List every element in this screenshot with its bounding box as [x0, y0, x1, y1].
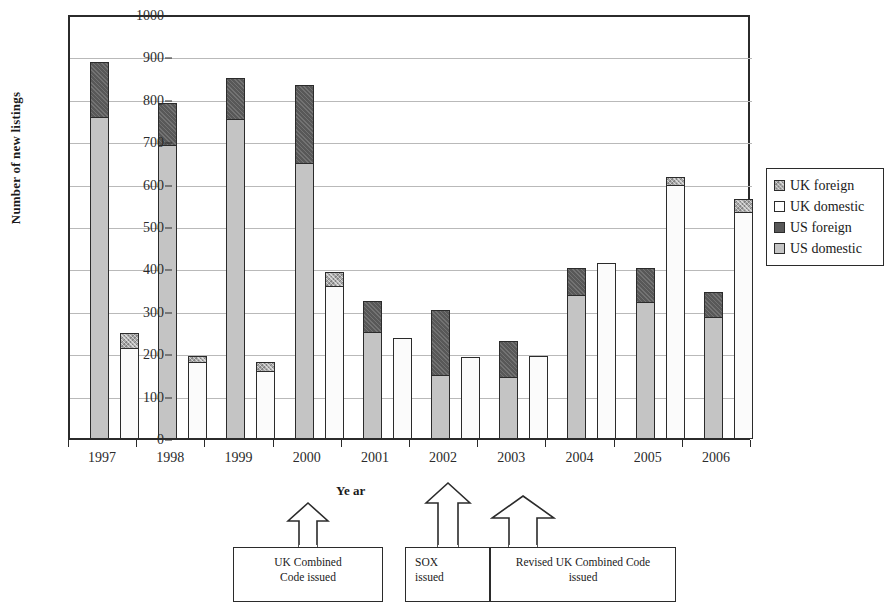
bar-us-1997	[90, 62, 109, 438]
legend-label-us-domestic: US domestic	[790, 242, 862, 256]
x-axis-tick-label-2005: 2005	[612, 450, 684, 466]
bar-uk-1998	[188, 356, 207, 438]
bar-us-2004	[567, 268, 586, 438]
x-axis-tick-mark	[341, 440, 342, 447]
x-axis-tick-label-1997: 1997	[66, 450, 138, 466]
annotation-line-1: SOX	[415, 555, 489, 570]
x-axis-tick-mark	[409, 440, 410, 447]
bar-uk-2002	[461, 357, 480, 438]
legend-swatch-uk-domestic	[774, 201, 785, 212]
bar-uk-2001	[393, 338, 412, 438]
bar-segment-uk-domestic	[188, 362, 207, 440]
bar-us-2003	[499, 341, 518, 438]
bar-segment-us-foreign	[704, 292, 723, 318]
bar-us-2000	[295, 85, 314, 438]
bar-segment-us-domestic	[499, 377, 518, 439]
x-axis-tick-label-2001: 2001	[339, 450, 411, 466]
bar-segment-us-domestic	[226, 119, 245, 440]
annotation-arrow-revised-uk-combined-code	[490, 494, 556, 551]
y-axis-tick-label: 0	[104, 433, 164, 447]
y-axis-tick-label: 700	[104, 136, 164, 150]
bar-segment-us-foreign	[363, 301, 382, 334]
annotation-box-sox: SOX issued	[405, 547, 490, 602]
annotation-line-1: Revised UK Combined Code	[491, 555, 675, 570]
y-axis-tick-label: 300	[104, 306, 164, 320]
y-axis-tick-label: 100	[104, 391, 164, 405]
legend: UK foreign UK domestic US foreign US dom…	[766, 168, 884, 266]
x-axis-tick-label-1998: 1998	[134, 450, 206, 466]
bar-segment-us-foreign	[636, 268, 655, 303]
annotation-line-2: issued	[491, 570, 675, 585]
annotation-line-1: UK Combined	[234, 555, 382, 570]
bar-us-2006	[704, 292, 723, 438]
legend-item-uk-foreign: UK foreign	[774, 175, 878, 196]
x-axis-tick-mark	[614, 440, 615, 447]
x-axis-tick-label-1999: 1999	[203, 450, 275, 466]
bar-segment-uk-domestic	[461, 357, 480, 439]
x-axis-title: Ye ar	[291, 483, 411, 499]
legend-item-uk-domestic: UK domestic	[774, 196, 878, 217]
bar-us-2001	[363, 301, 382, 438]
x-axis-tick-mark	[750, 440, 751, 447]
legend-item-us-foreign: US foreign	[774, 217, 878, 238]
bar-segment-uk-domestic	[666, 185, 685, 439]
annotation-arrow-uk-combined-code	[286, 501, 330, 551]
bar-segment-us-foreign	[499, 341, 518, 378]
annotation-line-2: Code issued	[234, 570, 382, 585]
gridline	[70, 101, 752, 102]
bar-segment-us-foreign	[226, 78, 245, 120]
bar-segment-uk-foreign	[120, 333, 139, 349]
bar-uk-2006	[734, 199, 753, 438]
bar-segment-us-foreign	[431, 310, 450, 377]
bar-segment-uk-domestic	[325, 286, 344, 439]
y-axis-tick-label: 500	[104, 221, 164, 235]
bar-us-1999	[226, 78, 245, 438]
x-axis-tick-mark	[68, 440, 69, 447]
legend-label-uk-foreign: UK foreign	[790, 179, 854, 193]
legend-label-us-foreign: US foreign	[790, 221, 852, 235]
x-axis-tick-label-2002: 2002	[407, 450, 479, 466]
bar-segment-us-foreign	[90, 62, 109, 118]
bar-segment-uk-domestic	[597, 263, 616, 439]
chart-container: Number of new listings 10009008007006005…	[0, 0, 888, 604]
annotation-box-uk-combined-code: UK Combined Code issued	[233, 547, 383, 602]
bar-uk-2004	[597, 263, 616, 438]
y-axis-tick-label: 200	[104, 348, 164, 362]
bar-segment-us-foreign	[567, 268, 586, 297]
bar-segment-uk-foreign	[325, 272, 344, 287]
x-axis-tick-label-2004: 2004	[544, 450, 616, 466]
x-axis-tick-label-2003: 2003	[475, 450, 547, 466]
y-axis-tick-label: 900	[104, 51, 164, 65]
legend-item-us-domestic: US domestic	[774, 238, 878, 259]
bar-us-2002	[431, 310, 450, 438]
bar-segment-us-domestic	[363, 332, 382, 439]
bar-segment-us-domestic	[704, 317, 723, 439]
bar-segment-us-domestic	[636, 302, 655, 440]
legend-swatch-us-domestic	[774, 243, 785, 254]
legend-swatch-uk-foreign	[774, 180, 785, 191]
y-axis-tick-label: 400	[104, 263, 164, 277]
bar-segment-uk-domestic	[256, 371, 275, 439]
x-axis-tick-label-2000: 2000	[271, 450, 343, 466]
bar-segment-us-domestic	[431, 375, 450, 439]
bar-segment-uk-domestic	[393, 338, 412, 440]
bar-segment-us-foreign	[295, 85, 314, 164]
annotation-line-2: issued	[415, 570, 489, 585]
y-axis-tick-label: 1000	[104, 9, 164, 23]
y-axis-tick-label: 800	[104, 94, 164, 108]
bar-us-2005	[636, 268, 655, 438]
x-axis-tick-mark	[682, 440, 683, 447]
bar-uk-2005	[666, 177, 685, 438]
y-axis-tick-label: 600	[104, 179, 164, 193]
bar-segment-uk-domestic	[734, 212, 753, 439]
bar-segment-uk-domestic	[529, 356, 548, 439]
y-axis-title: Number of new listings	[8, 58, 24, 258]
x-axis-tick-mark	[477, 440, 478, 447]
annotation-box-revised-uk-combined-code: Revised UK Combined Code issued	[490, 547, 676, 602]
bar-uk-1999	[256, 362, 275, 438]
legend-label-uk-domestic: UK domestic	[790, 200, 864, 214]
bar-segment-us-domestic	[567, 295, 586, 439]
x-axis-tick-mark	[273, 440, 274, 447]
x-axis-tick-mark	[545, 440, 546, 447]
bar-uk-2000	[325, 272, 344, 438]
